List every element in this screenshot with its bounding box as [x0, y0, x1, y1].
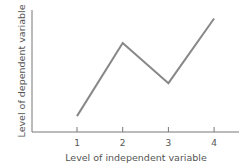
- x-tick-label: 1: [74, 138, 80, 148]
- x-tick-label: 3: [166, 138, 172, 148]
- x-tick-label: 2: [120, 138, 126, 148]
- x-ticks: 1234: [74, 127, 217, 148]
- x-tick-label: 4: [211, 138, 217, 148]
- y-axis-label: Level of dependent variable: [16, 4, 27, 137]
- x-axis-label: Level of independent variable: [65, 152, 207, 163]
- line-chart: 1234 Level of independent variable Level…: [0, 0, 248, 168]
- data-line: [77, 19, 214, 117]
